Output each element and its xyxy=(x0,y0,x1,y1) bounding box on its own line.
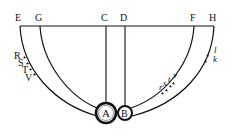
label-k: k xyxy=(213,54,218,64)
label-G: G xyxy=(35,12,42,23)
diagram-canvas: E G C D F H A B R S T V r s t v l k xyxy=(0,0,234,140)
label-A: A xyxy=(102,107,110,119)
label-E: E xyxy=(15,12,21,23)
label-t: t xyxy=(168,74,171,84)
label-C: C xyxy=(101,12,108,23)
arc-inner-left xyxy=(40,26,97,108)
label-B: B xyxy=(121,108,128,119)
label-F: F xyxy=(190,12,196,23)
label-H: H xyxy=(209,12,216,23)
label-V: V xyxy=(25,72,33,83)
arc-inner-right xyxy=(131,26,194,108)
label-v: v xyxy=(173,70,177,80)
label-D: D xyxy=(120,12,127,23)
label-s: s xyxy=(163,78,167,88)
